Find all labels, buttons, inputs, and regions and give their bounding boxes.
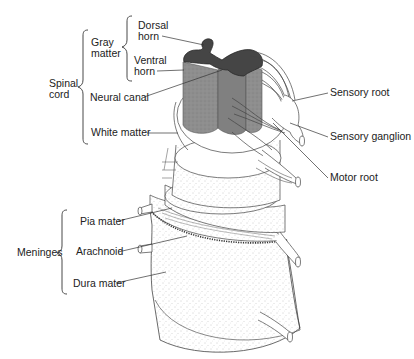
- label-gray-matter: Gray matter: [91, 37, 121, 59]
- gray-matter-brace: [122, 16, 132, 81]
- label-pia-mater: Pia mater: [80, 216, 125, 227]
- label-ventral-horn: Ventral horn: [134, 55, 167, 77]
- label-meninges: Meninges: [17, 247, 63, 258]
- label-spinal-cord: Spinal cord: [49, 78, 78, 100]
- label-motor-root: Motor root: [330, 172, 378, 183]
- label-dorsal-horn-line2: horn: [138, 31, 168, 42]
- label-sensory-ganglion: Sensory ganglion: [330, 131, 411, 142]
- label-ventral-horn-line2: horn: [134, 66, 167, 77]
- label-white-matter: White matter: [91, 127, 151, 138]
- label-gray-matter-line2: matter: [91, 48, 121, 59]
- label-neural-canal: Neural canal: [90, 92, 149, 103]
- label-dura-mater: Dura mater: [73, 278, 126, 289]
- spinal-cord-diagram: Dorsal horn Gray matter Ventral horn Spi…: [0, 0, 414, 359]
- spinal-cord-brace: [78, 30, 88, 144]
- label-sensory-root: Sensory root: [330, 87, 390, 98]
- label-dorsal-horn: Dorsal horn: [138, 20, 168, 42]
- label-spinal-cord-line2: cord: [49, 89, 78, 100]
- label-arachnoid: Arachnoid: [76, 246, 123, 257]
